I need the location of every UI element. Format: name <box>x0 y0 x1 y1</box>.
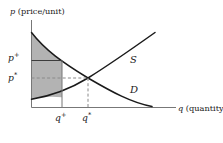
q-axis-symbol: q <box>178 103 183 113</box>
q-plus-tick-label: q+ <box>55 113 66 122</box>
p-star-tick-label: p* <box>8 73 17 82</box>
q-star-tick-label: q* <box>82 113 91 122</box>
p-star-superscript: * <box>14 71 17 79</box>
surplus-region <box>32 33 63 100</box>
q-axis-title: q (quantity) <box>178 104 223 112</box>
p-axis-title: p (price/unit) <box>10 7 65 15</box>
p-plus-tick-label: p+ <box>8 53 19 62</box>
supply-curve-label: S <box>130 55 137 65</box>
p-axis-unit: (price/unit) <box>18 6 65 16</box>
q-axis-unit: (quantity) <box>186 103 223 113</box>
q-star-superscript: * <box>88 111 91 119</box>
supply-demand-figure: p (price/unit) q (quantity) S D p+ p* q+… <box>0 0 223 143</box>
q-plus-superscript: + <box>61 111 67 119</box>
p-axis-symbol: p <box>10 6 15 16</box>
p-plus-superscript: + <box>14 51 20 59</box>
plot-canvas <box>0 0 223 143</box>
demand-curve-label: D <box>130 85 138 95</box>
